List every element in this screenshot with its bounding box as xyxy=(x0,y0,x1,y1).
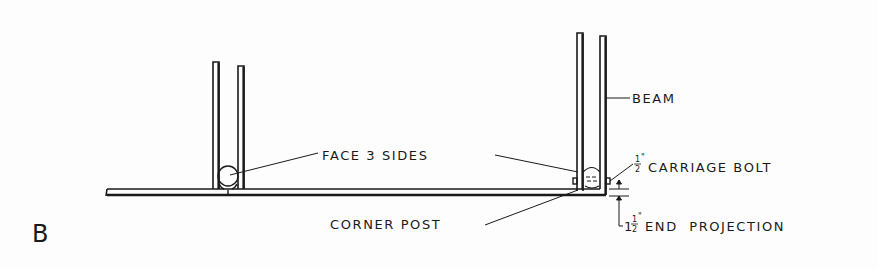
end-projection-inch-mark: " xyxy=(638,212,642,221)
label-face-3-sides: FACE 3 SIDES xyxy=(322,148,429,163)
drawing-svg: FACE 3 SIDES BEAM 1 2 " CARRIAGE BOLT CO… xyxy=(0,0,877,269)
horizontal-rail xyxy=(106,189,606,196)
end-projection-fraction-denominator: 2 xyxy=(632,225,637,234)
right-corner-post xyxy=(573,33,610,195)
left-post xyxy=(213,62,244,196)
leader-lines xyxy=(230,98,633,225)
carriage-bolt-fraction-denominator: 2 xyxy=(635,165,640,174)
label-end-projection: 1 1 2 " END PROJECTION xyxy=(624,212,785,234)
carriage-bolt-fraction-numerator: 1 xyxy=(635,155,640,164)
label-beam: BEAM xyxy=(632,91,676,106)
label-carriage-bolt: 1 2 " CARRIAGE BOLT xyxy=(634,153,772,175)
label-corner-post: CORNER POST xyxy=(330,217,441,232)
carriage-bolt-text: CARRIAGE BOLT xyxy=(648,160,772,175)
panel-letter: B xyxy=(32,220,48,248)
carriage-bolt-inch-mark: " xyxy=(641,153,645,162)
end-projection-fraction-numerator: 1 xyxy=(632,215,637,224)
end-projection-text: END PROJECTION xyxy=(645,219,785,234)
technical-drawing: FACE 3 SIDES BEAM 1 2 " CARRIAGE BOLT CO… xyxy=(0,0,877,269)
